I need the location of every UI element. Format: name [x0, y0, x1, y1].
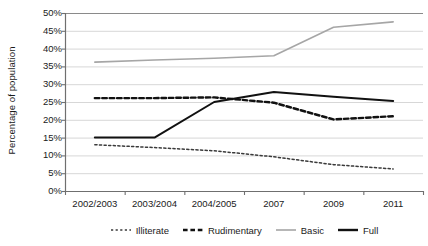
- dashed-line-swatch: [182, 226, 204, 234]
- legend-label: Illiterate: [136, 225, 169, 236]
- legend-item-full[interactable]: Full: [337, 225, 378, 236]
- series-line-rudimentary: [95, 97, 393, 119]
- series-line-basic: [95, 22, 393, 62]
- x-tick-label: 2007: [263, 199, 284, 209]
- x-tick-label: 2011: [383, 199, 403, 209]
- legend-item-rudimentary[interactable]: Rudimentary: [182, 225, 262, 236]
- x-tick-label: 2009: [323, 199, 344, 209]
- legend-item-basic[interactable]: Basic: [275, 225, 324, 236]
- legend-item-illiterate[interactable]: Illiterate: [110, 225, 169, 236]
- black-solid-line-swatch: [337, 226, 359, 234]
- gray-solid-line-swatch: [275, 226, 297, 234]
- x-tick-label: 2004/2005: [192, 199, 237, 209]
- chart-legend: IlliterateRudimentaryBasicFull: [65, 221, 423, 239]
- dotted-line-swatch: [110, 226, 132, 234]
- legend-label: Full: [363, 225, 378, 236]
- x-tick-label: 2002/2003: [72, 199, 117, 209]
- chart-figure: Percentage of population 0%5%10%15%20%25…: [0, 0, 428, 246]
- legend-label: Basic: [301, 225, 324, 236]
- x-axis-tick-labels: 2002/20032003/20042004/2005200720092011: [65, 195, 423, 211]
- legend-label: Rudimentary: [208, 225, 262, 236]
- x-tick-label: 2003/2004: [132, 199, 177, 209]
- series-line-illiterate: [95, 145, 393, 169]
